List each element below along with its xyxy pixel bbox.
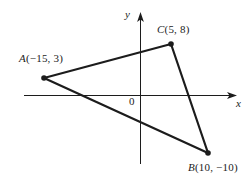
origin-label: 0	[129, 95, 135, 108]
vertex-letter-b: B	[188, 161, 195, 173]
vertex-dot-c	[168, 41, 174, 47]
vertex-letter-c: C	[157, 23, 165, 35]
vertex-label-a: A(−15, 3)	[19, 52, 63, 65]
vertex-dot-b	[205, 150, 211, 156]
triangle-coordinate-figure	[0, 0, 248, 181]
vertex-letter-a: A	[19, 52, 26, 64]
vertex-coords-a: (−15, 3)	[26, 52, 63, 64]
figure-canvas: y x 0 A(−15, 3) C(5, 8) B(10, −10)	[0, 0, 248, 181]
triangle-outline	[44, 44, 208, 153]
x-axis-label: x	[236, 97, 241, 110]
vertex-coords-b: (10, −10)	[195, 161, 238, 173]
vertex-dot-a	[41, 75, 47, 81]
vertex-label-b: B(10, −10)	[188, 161, 238, 174]
vertex-coords-c: (5, 8)	[165, 23, 190, 35]
y-axis-label: y	[125, 8, 130, 21]
vertex-label-c: C(5, 8)	[157, 23, 190, 36]
